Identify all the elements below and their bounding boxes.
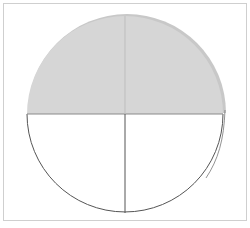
- fraction-circle-diagram: [0, 0, 250, 228]
